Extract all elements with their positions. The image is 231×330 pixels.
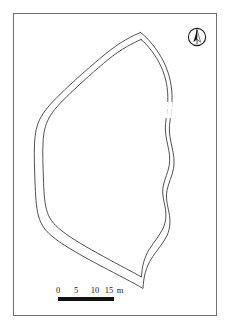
scale-bar-track — [58, 297, 114, 301]
scale-segment-0-5 — [58, 297, 76, 301]
map-frame-border — [13, 13, 217, 316]
scale-segment-5-10 — [76, 297, 95, 301]
scale-unit-label: m — [117, 285, 124, 296]
scale-segment-10-15 — [95, 297, 114, 301]
site-plan-figure: 0 5 10 15 m — [0, 0, 231, 330]
scale-label-0: 0 — [56, 285, 60, 296]
north-arrow-icon — [187, 27, 207, 47]
scale-bar: 0 5 10 15 m — [58, 285, 120, 305]
scale-label-15: 15 — [105, 285, 114, 296]
scale-bar-labels: 0 5 10 15 m — [58, 285, 120, 296]
scale-label-5: 5 — [74, 285, 78, 296]
scale-label-10: 10 — [91, 285, 100, 296]
